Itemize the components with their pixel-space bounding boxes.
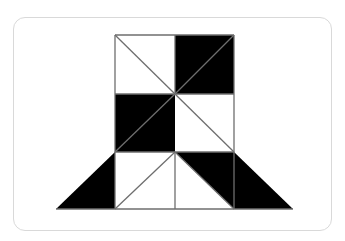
diag-mid-right	[175, 94, 234, 152]
bottom-right-triangle	[234, 152, 293, 209]
tangram-figure	[0, 0, 345, 241]
diag-top-left	[115, 35, 175, 94]
diag-bottom-left	[115, 152, 175, 209]
bottom-left-triangle	[56, 152, 115, 209]
